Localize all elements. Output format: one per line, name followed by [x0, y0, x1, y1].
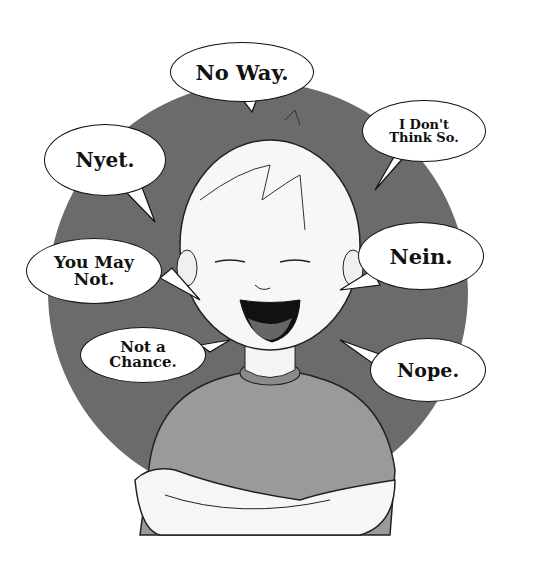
illustration: No Way. Nyet. I Don't Think So. You May …: [0, 0, 543, 562]
bubble-text: Nein.: [389, 246, 452, 267]
bubble-i-dont-think-so: I Don't Think So.: [362, 100, 486, 162]
bubble-text: Nope.: [397, 361, 459, 380]
bubble-not-a-chance: Not a Chance.: [80, 327, 206, 383]
bubble-nyet: Nyet.: [44, 124, 166, 196]
bubble-text-line2: Chance.: [109, 355, 176, 370]
bubble-text: Nyet.: [76, 150, 135, 170]
bubble-text: No Way.: [196, 62, 289, 83]
bubble-text-line2: Think So.: [389, 131, 458, 144]
bubble-no-way: No Way.: [170, 42, 314, 102]
bubble-nein: Nein.: [358, 222, 484, 290]
bubble-you-may-not: You May Not.: [26, 238, 162, 304]
bubble-nope: Nope.: [370, 338, 486, 402]
bubble-text-line2: Not.: [74, 271, 115, 288]
